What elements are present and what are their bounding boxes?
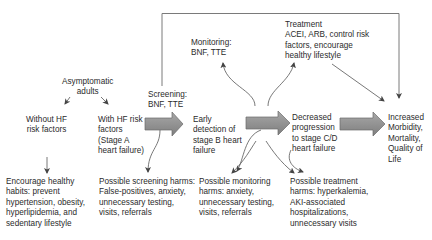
line: habits: prevent: [6, 187, 85, 197]
line: sedentary lifestyle: [6, 219, 85, 229]
node-increased-morbidity: Increased Morbidity, Mortality, Quality …: [388, 113, 424, 165]
line: detection of: [193, 125, 242, 135]
line: visits, referrals: [99, 208, 195, 218]
line: AKI-associated: [290, 198, 368, 208]
line: With HF risk: [98, 115, 144, 125]
line: healthy lifestyle: [285, 51, 369, 61]
line: Possible screening harms:: [99, 177, 195, 187]
arrow-to-without-hf: [65, 97, 70, 104]
node-encourage-healthy-habits: Encourage healthy habits: prevent hypert…: [6, 177, 85, 229]
line: hospitalizations,: [290, 208, 368, 218]
node-screening: Screening: BNF, TTE: [148, 90, 187, 111]
line: hyperlipidemia, and: [6, 208, 85, 218]
line: False-positives, anxiety,: [99, 187, 195, 197]
line: Treatment: [285, 20, 369, 30]
line: unnecessary testing,: [199, 198, 274, 208]
line: visits, referrals: [199, 208, 274, 218]
node-early-detection: Early detection of stage B heart failure: [193, 115, 242, 157]
node-treatment-harms: Possible treatment harms: hyperkalemia, …: [290, 177, 368, 229]
line: BNF, TTE: [148, 100, 187, 110]
line: risk factors: [26, 125, 67, 135]
line: Life: [388, 155, 424, 165]
line: Possible treatment: [290, 177, 368, 187]
line: ACEI, ARB, control risk: [285, 30, 369, 40]
arrow-to-treatment: [268, 63, 294, 106]
node-screening-harms: Possible screening harms: False-positive…: [99, 177, 195, 219]
line: BNF, TTE: [191, 48, 232, 58]
line: hypertension, obesity,: [6, 198, 85, 208]
line: progression: [292, 123, 338, 133]
arrow-to-with-hf: [101, 97, 108, 104]
line: to stage C/D: [292, 134, 338, 144]
block-arrow-decreased-to-increased: [340, 112, 385, 136]
block-arrow-b-to-decreased: [246, 111, 290, 135]
line: Increased: [388, 113, 424, 123]
line: Encourage healthy: [6, 177, 85, 187]
line: Quality of: [388, 144, 424, 154]
line: Monitoring:: [191, 38, 232, 48]
node-decreased-progression: Decreased progression to stage C/D heart…: [292, 113, 338, 155]
arrow-to-treatment-harms: [266, 141, 294, 173]
node-asymptomatic-adults: Asymptomatic adults: [62, 77, 113, 98]
line: factors, encourage: [285, 41, 369, 51]
node-with-hf-risk-factors: With HF risk factors (Stage A heart fail…: [98, 115, 144, 157]
node-treatment: Treatment ACEI, ARB, control risk factor…: [285, 20, 369, 62]
line: Asymptomatic: [62, 77, 113, 87]
line: harms: anxiety,: [199, 187, 274, 197]
line: Possible monitoring: [199, 177, 274, 187]
line: Screening:: [148, 90, 187, 100]
line: (Stage A: [98, 136, 144, 146]
line: Morbidity,: [388, 123, 424, 133]
line: heart failure: [292, 144, 338, 154]
line: Without HF: [26, 115, 67, 125]
line: factors: [98, 125, 144, 135]
arrow-to-monitoring: [223, 63, 255, 106]
node-without-hf-risk-factors: Without HF risk factors: [26, 115, 67, 136]
line: Early: [193, 115, 242, 125]
line: adults: [62, 87, 113, 97]
line: stage B heart: [193, 136, 242, 146]
line: Decreased: [292, 113, 338, 123]
arrow-treatment-to-increased: [332, 64, 384, 101]
node-monitoring-harms: Possible monitoring harms: anxiety, unne…: [199, 177, 274, 219]
arrow-to-screening-harms: [148, 130, 160, 172]
line: unnecessary visits: [290, 219, 368, 229]
line: Mortality,: [388, 134, 424, 144]
line: failure: [193, 146, 242, 156]
line: harms: hyperkalemia,: [290, 187, 368, 197]
line: heart failure): [98, 146, 144, 156]
node-monitoring: Monitoring: BNF, TTE: [191, 38, 232, 59]
block-arrow-stage-a-to-b: [145, 112, 183, 136]
line: unnecessary testing,: [99, 198, 195, 208]
